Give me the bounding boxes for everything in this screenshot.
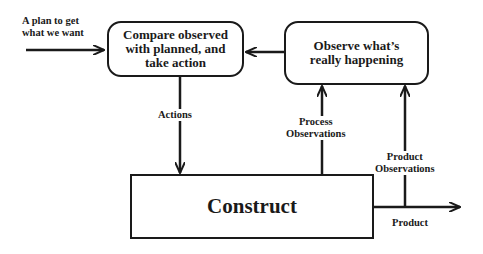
observe-node: Observe what’s really happening: [284, 21, 429, 85]
compare-node-label: Compare observed with planned, and take …: [113, 28, 238, 70]
actions-label: Actions: [158, 109, 192, 121]
construct-node: Construct: [130, 174, 374, 239]
product-observations-label: Product Observations: [375, 151, 435, 175]
process-observations-label: Process Observations: [286, 116, 346, 140]
observe-node-label: Observe what’s really happening: [308, 39, 405, 67]
product-label: Product: [392, 217, 428, 229]
construct-node-label: Construct: [207, 194, 297, 219]
compare-node: Compare observed with planned, and take …: [107, 21, 244, 77]
plan-label: A plan to get what we want: [22, 15, 84, 39]
